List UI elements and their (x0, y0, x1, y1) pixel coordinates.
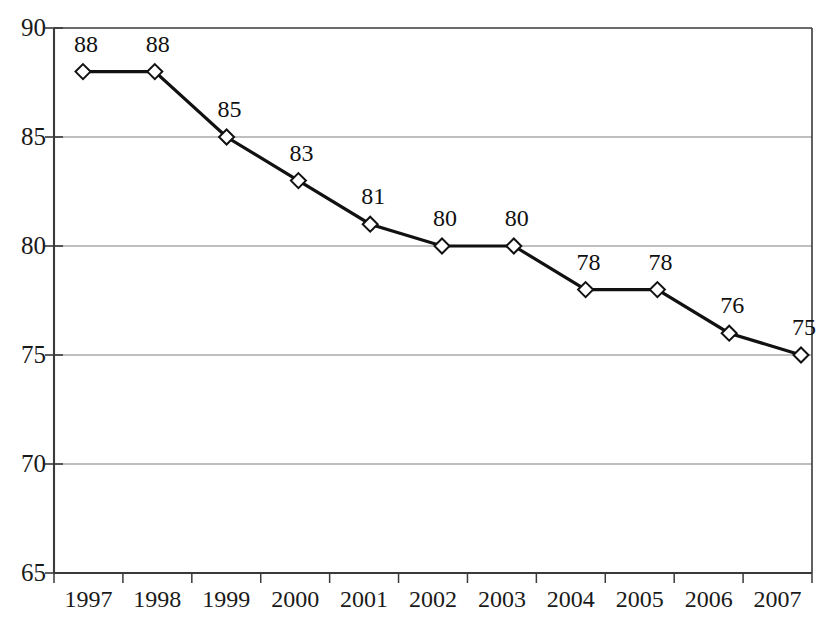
point-label-2005: 78 (638, 250, 682, 274)
point-label-2007: 75 (782, 315, 826, 339)
x-axis-label-1997: 1997 (54, 587, 123, 611)
data-marker-2004 (578, 282, 593, 297)
point-label-2003: 80 (495, 206, 539, 230)
y-axis-label-65: 65 (0, 560, 46, 585)
x-axis-label-2004: 2004 (536, 587, 605, 611)
chart-plot-area (0, 0, 831, 620)
data-marker-2002 (435, 239, 450, 254)
x-axis-label-2001: 2001 (330, 587, 399, 611)
point-label-2000: 83 (279, 141, 323, 165)
data-marker-1997 (76, 64, 91, 79)
x-axis-label-1999: 1999 (192, 587, 261, 611)
point-label-2002: 80 (423, 206, 467, 230)
x-axis-label-2000: 2000 (261, 587, 330, 611)
y-axis-label-90: 90 (0, 15, 46, 40)
x-axis-label-1998: 1998 (123, 587, 192, 611)
point-label-2006: 76 (710, 293, 754, 317)
x-axis-label-2006: 2006 (674, 587, 743, 611)
x-axis-label-2007: 2007 (743, 587, 812, 611)
point-label-2001: 81 (351, 184, 395, 208)
x-axis-label-2005: 2005 (605, 587, 674, 611)
y-axis-label-75: 75 (0, 342, 46, 367)
data-marker-2003 (506, 239, 521, 254)
y-axis-label-85: 85 (0, 124, 46, 149)
data-marker-2001 (363, 217, 378, 232)
data-marker-2005 (650, 282, 665, 297)
x-axis-label-2002: 2002 (399, 587, 468, 611)
data-marker-2000 (291, 173, 306, 188)
point-label-1998: 88 (136, 32, 180, 56)
point-label-1997: 88 (64, 32, 108, 56)
x-axis-label-2003: 2003 (467, 587, 536, 611)
point-label-1999: 85 (208, 97, 252, 121)
data-marker-2006 (722, 326, 737, 341)
y-axis-label-70: 70 (0, 451, 46, 476)
data-marker-2007 (794, 348, 809, 363)
y-axis-label-80: 80 (0, 233, 46, 258)
line-chart: 657075808590 199719981999200020012002200… (0, 0, 831, 620)
point-label-2004: 78 (567, 250, 611, 274)
